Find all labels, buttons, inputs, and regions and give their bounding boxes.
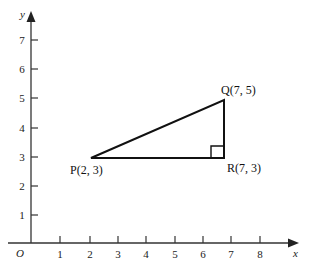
x-tick-label-3: 3 xyxy=(110,248,126,260)
y-axis-label: y xyxy=(20,8,25,20)
y-tick-label-1: 1 xyxy=(14,209,30,221)
y-axis-ticks xyxy=(31,40,38,215)
x-tick-label-8: 8 xyxy=(252,248,268,260)
right-angle-marker xyxy=(211,146,224,158)
plot-canvas xyxy=(0,0,312,275)
x-tick-label-6: 6 xyxy=(195,248,211,260)
y-tick-label-2: 2 xyxy=(14,180,30,192)
geometry-figure: 7 6 5 4 3 2 1 1 2 3 4 5 6 7 8 y x O P(2,… xyxy=(0,0,312,275)
x-tick-label-4: 4 xyxy=(138,248,154,260)
x-tick-label-1: 1 xyxy=(52,248,68,260)
vertex-label-r: R(7, 3) xyxy=(227,162,261,175)
x-tick-label-5: 5 xyxy=(167,248,183,260)
vertex-label-q: Q(7, 5) xyxy=(221,84,256,97)
x-axis-ticks xyxy=(60,236,260,243)
x-tick-label-7: 7 xyxy=(223,248,239,260)
origin-label: O xyxy=(16,247,24,259)
triangle-pqr xyxy=(91,100,224,158)
y-tick-label-6: 6 xyxy=(14,63,30,75)
y-tick-label-5: 5 xyxy=(14,92,30,104)
y-axis-arrowhead xyxy=(27,11,36,22)
y-tick-label-3: 3 xyxy=(14,151,30,163)
y-tick-label-4: 4 xyxy=(14,122,30,134)
x-tick-label-2: 2 xyxy=(82,248,98,260)
x-axis-label: x xyxy=(293,247,298,259)
vertex-label-p: P(2, 3) xyxy=(70,164,103,177)
y-tick-label-7: 7 xyxy=(14,34,30,46)
